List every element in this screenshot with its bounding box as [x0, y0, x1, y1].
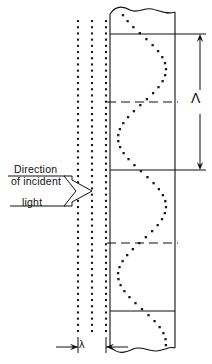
torn-top-edge — [110, 7, 175, 14]
direction-label-line1: Direction — [14, 163, 57, 175]
figure-canvas: Direction of incident light Λ λ — [0, 0, 212, 364]
fringe-lines — [107, 34, 178, 311]
incident-wavefront-lines — [77, 20, 107, 332]
wavelength-dimension-arrow-icon — [56, 337, 128, 353]
sinusoid-dotted-curve — [117, 14, 167, 346]
grating-period-symbol-label: Λ — [191, 91, 200, 105]
direction-label-line2: of incident — [11, 175, 61, 187]
light-label: light — [22, 196, 42, 208]
medium-block — [110, 7, 175, 352]
wavelength-symbol-label: λ — [79, 339, 85, 350]
